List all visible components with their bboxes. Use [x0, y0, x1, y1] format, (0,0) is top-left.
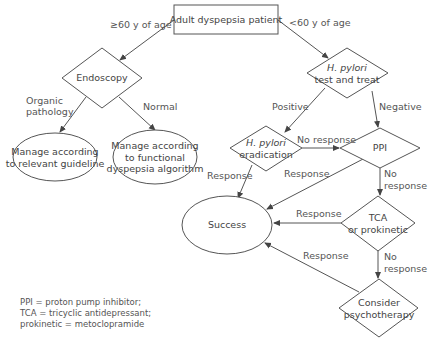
psych-line2: psychotherapy [344, 308, 415, 320]
edge-label-psych-response: Response [303, 250, 349, 261]
edge-label-eradication-no-response: No response [297, 134, 356, 145]
node-functional-label: Manage according to functional dyspepsia… [107, 140, 204, 175]
test-and-treat: test and treat [315, 73, 380, 85]
eradication-italic: H. pylori [239, 137, 292, 149]
node-psychotherapy-label: Consider psychotherapy [344, 297, 415, 320]
functional-line3: dyspepsia algorithm [107, 163, 204, 175]
edge-label-ppi-no-1: No [384, 168, 397, 179]
node-success-label: Success [208, 219, 246, 231]
edge-label-age-over-60: ≥60 y of age [110, 19, 172, 30]
edge-label-organic-1: Organic [26, 95, 63, 106]
edge-ppi-success [267, 158, 365, 209]
edge-label-positive: Positive [272, 101, 309, 112]
node-hpylori-test-label: H. pylori test and treat [315, 62, 380, 85]
node-tca-label: TCA or prokinetic [348, 212, 408, 235]
edge-label-tca-no-2: response [384, 263, 427, 274]
psych-line1: Consider [344, 297, 415, 309]
node-ppi-label: PPI [373, 142, 387, 154]
node-start-label: Adult dyspepsia patient [170, 14, 283, 26]
eradication-text: eradication [239, 148, 292, 160]
node-endoscopy-label: Endoscopy [76, 72, 128, 84]
edge-label-negative: Negative [379, 101, 422, 112]
functional-line2: to functional [107, 151, 204, 163]
edge-label-organic-2: pathology [26, 106, 74, 117]
edge-label-age-under-60: <60 y of age [289, 17, 351, 28]
hpylori-italic: H. pylori [315, 62, 380, 74]
legend: PPI = proton pump inhibitor; TCA = tricy… [20, 297, 151, 330]
edge-label-ppi-no-2: response [384, 180, 427, 191]
tca-line1: TCA [348, 212, 408, 224]
functional-line1: Manage according [107, 140, 204, 152]
node-guideline-label: Manage according to relevant guideline [6, 146, 105, 169]
edge-label-eradication-response: Response [207, 170, 253, 181]
edge-label-ppi-response: Response [284, 168, 330, 179]
legend-line3: prokinetic = metoclopramide [20, 319, 151, 330]
edge-label-tca-response: Response [296, 208, 342, 219]
tca-line2: or prokinetic [348, 223, 408, 235]
guideline-line2: to relevant guideline [6, 157, 105, 169]
edge-label-normal: Normal [143, 101, 177, 112]
edge-label-tca-no-1: No [384, 251, 397, 262]
legend-line1: PPI = proton pump inhibitor; [20, 297, 151, 308]
node-eradication-label: H. pylori eradication [239, 137, 292, 160]
edge-hpylori-ppi [372, 91, 378, 127]
legend-line2: TCA = tricyclic antidepressant; [20, 308, 151, 319]
guideline-line1: Manage according [6, 146, 105, 158]
